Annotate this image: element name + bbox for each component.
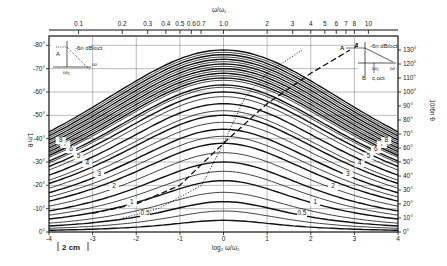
scale-bar-label: 2 cm (62, 243, 80, 252)
curve-label-0.5: 0.5 (141, 209, 150, 216)
left-axis-ticks: 0°-10°-20°-30°-40°-50°-60°-70°-80° (33, 41, 49, 235)
bottom-tick-label: -1 (177, 235, 183, 242)
top-tick-label: 7 (344, 20, 348, 27)
right-tick-label: 90° (403, 102, 413, 109)
inset-right-omega1: ω₁ (372, 65, 379, 71)
top-tick-label: 2 (265, 20, 269, 27)
top-tick-label: 5 (323, 20, 327, 27)
left-tick-label: -50° (33, 111, 45, 118)
top-tick-label: 4 (309, 20, 313, 27)
top-axis-ticks: 0.10.20.30.40.50.60.71.0234567810 (74, 20, 372, 34)
curve-label-5: 5 (367, 152, 371, 159)
bottom-tick-label: 2 (309, 235, 313, 242)
curve-label-0.5: 0.5 (297, 209, 306, 216)
bottom-tick-label: -4 (46, 235, 52, 242)
top-tick-label: 3 (291, 20, 295, 27)
right-axis-ticks: 0°10°20°30°40°50°60°70°80°90°100°110°120… (398, 46, 417, 235)
scale-bar: 2 cm (58, 242, 88, 252)
right-tick-label: 60° (403, 144, 413, 151)
bottom-axis-title: log₂ ω/ω₁ (212, 244, 240, 252)
right-tick-label: 110° (403, 74, 416, 81)
inset-right-A: A (340, 45, 345, 51)
left-tick-label: -10° (33, 205, 45, 212)
right-tick-label: 30° (403, 186, 413, 193)
right-tick-label: 100° (403, 88, 417, 95)
left-tick-label: -60° (33, 88, 45, 95)
curve-label-8: 8 (384, 136, 388, 143)
curve-label-1: 1 (313, 198, 317, 205)
top-tick-label: 0.5 (175, 20, 184, 27)
bottom-tick-label: 4 (396, 235, 400, 242)
bottom-tick-label: -3 (90, 235, 96, 242)
bottom-tick-label: 3 (353, 235, 357, 242)
curve-label-3: 3 (346, 170, 350, 177)
left-tick-label: -30° (33, 158, 45, 165)
top-tick-label: 0.1 (74, 20, 83, 27)
top-tick-label: 0.7 (197, 20, 206, 27)
left-tick-label: -80° (33, 41, 45, 48)
chart: A 0.50.51122334455667788 0.10.20.30.40.5… (0, 0, 447, 266)
top-tick-label: 0.4 (161, 20, 170, 27)
right-tick-label: 70° (403, 130, 413, 137)
top-tick-label: 0.3 (143, 20, 152, 27)
curve-label-1: 1 (130, 198, 134, 205)
top-tick-label: 0.2 (118, 20, 127, 27)
curve-label-2: 2 (112, 182, 116, 189)
right-tick-label: 120° (403, 60, 417, 67)
right-tick-label: 0° (403, 228, 410, 235)
bottom-tick-label: 0 (222, 235, 226, 242)
right-axis-title: 10/6n θ (429, 99, 436, 121)
top-tick-label: 6 (334, 20, 338, 27)
left-axis-title: 1/n θ (27, 133, 34, 148)
right-tick-label: 80° (403, 116, 413, 123)
right-tick-label: 50° (403, 158, 413, 165)
curve-label-4: 4 (86, 159, 90, 166)
right-tick-label: 130° (403, 46, 417, 53)
inset-left-slope-label: -6n dB/oct (75, 45, 103, 51)
curve-label-2: 2 (331, 182, 335, 189)
inset-right-omega: ω (390, 65, 395, 71)
right-tick-label: 40° (403, 172, 413, 179)
top-tick-label: 10 (365, 20, 373, 27)
curve-label-4: 4 (358, 159, 362, 166)
curve-label-8: 8 (59, 136, 63, 143)
top-tick-label: 1.0 (219, 20, 228, 27)
bottom-tick-label: 1 (265, 235, 269, 242)
inset-right-slope-label: -6n dB/oct (370, 43, 398, 49)
top-axis-title: ω/ω₁ (212, 6, 227, 13)
top-tick-label: 0.6 (187, 20, 196, 27)
curve-label-5: 5 (77, 152, 81, 159)
inset-left-omega1: ω₁ (63, 69, 70, 75)
left-tick-label: -20° (33, 181, 45, 188)
inset-left-omega: ω (92, 61, 97, 67)
right-tick-label: 20° (403, 200, 413, 207)
top-tick-label: 8 (353, 20, 357, 27)
right-tick-label: 10° (403, 214, 413, 221)
curve-label-3: 3 (97, 170, 101, 177)
inset-right-c-oct: c,oct (372, 75, 385, 81)
bottom-tick-label: -2 (133, 235, 139, 242)
bottom-axis-ticks: -4-3-2-101234 (46, 232, 400, 242)
inset-right-B: B (362, 75, 366, 81)
left-tick-label: 0° (39, 228, 46, 235)
left-tick-label: -70° (33, 65, 45, 72)
inset-left-A: A (56, 51, 60, 57)
